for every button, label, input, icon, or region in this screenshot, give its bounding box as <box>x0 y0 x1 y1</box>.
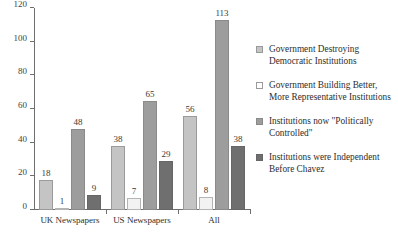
legend-item: Government Destroying Democratic Institu… <box>256 44 398 67</box>
legend-swatch-icon <box>256 46 263 53</box>
y-axis-tick-label: 120 <box>14 0 28 9</box>
x-axis-tick-mark <box>178 210 179 214</box>
bar-value-label: 29 <box>153 150 179 159</box>
bar <box>71 129 85 210</box>
bar-value-label: 48 <box>65 118 91 127</box>
y-axis-tick-label: 60 <box>18 101 27 110</box>
legend-label: Institutions were Independent Before Cha… <box>269 152 398 175</box>
legend-item: Institutions were Independent Before Cha… <box>256 152 398 175</box>
y-axis-tick-label: 20 <box>18 168 27 177</box>
y-axis-tick-label: 0 <box>23 202 28 211</box>
legend-swatch-icon <box>256 154 263 161</box>
bar <box>183 116 197 210</box>
bar <box>215 20 229 210</box>
bar-value-label: 38 <box>105 135 131 144</box>
chart-legend: Government Destroying Democratic Institu… <box>256 44 398 188</box>
legend-swatch-icon <box>256 118 263 125</box>
bar-value-label: 65 <box>137 90 163 99</box>
legend-item: Institutions now "Politically Controlled… <box>256 116 398 139</box>
bar-value-label: 113 <box>209 9 235 18</box>
x-axis-tick-mark <box>250 210 251 214</box>
legend-label: Government Building Better, More Represe… <box>269 80 398 103</box>
bar <box>55 208 69 210</box>
bar <box>87 195 101 210</box>
bar <box>199 197 213 210</box>
legend-item: Government Building Better, More Represe… <box>256 80 398 103</box>
legend-label: Government Destroying Democratic Institu… <box>269 44 398 67</box>
x-axis-category-label: All <box>164 215 264 225</box>
bar-value-label: 38 <box>225 135 251 144</box>
bar-value-label: 18 <box>33 169 59 178</box>
bar <box>231 146 245 210</box>
bar <box>127 198 141 210</box>
chart-page: 020406080100120 181489387652956811338 UK… <box>0 0 398 235</box>
legend-swatch-icon <box>256 82 263 89</box>
bar-value-label: 9 <box>81 184 107 193</box>
bar-value-label: 56 <box>177 105 203 114</box>
bar <box>111 146 125 210</box>
x-axis-tick-mark <box>106 210 107 214</box>
y-axis-tick-label: 40 <box>18 135 27 144</box>
y-axis-tick-label: 100 <box>14 34 28 43</box>
y-axis-tick-label: 80 <box>18 67 27 76</box>
legend-label: Institutions now "Politically Controlled… <box>269 116 398 139</box>
plot-area: 181489387652956811338 <box>34 8 250 210</box>
bar <box>159 161 173 210</box>
